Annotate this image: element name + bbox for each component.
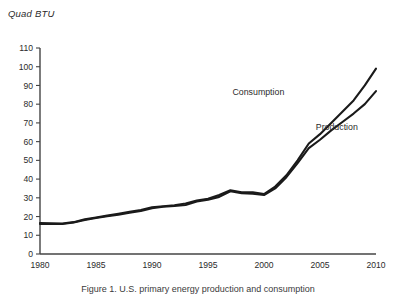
series-label-consumption: Consumption: [232, 87, 284, 97]
y-axis-tick-label: 110: [19, 43, 33, 53]
y-axis-tick-label: 20: [23, 212, 33, 222]
series-label-production: Production: [316, 122, 358, 132]
y-axis-tick-label: 60: [23, 137, 33, 147]
x-axis-tick-label: 1985: [86, 260, 105, 270]
y-axis-tick-label: 0: [28, 249, 33, 259]
x-axis-tick-label: 2010: [366, 260, 385, 270]
x-axis-tick-label: 2005: [310, 260, 329, 270]
y-axis-tick-label: 10: [23, 230, 33, 240]
figure-caption: Figure 1. U.S. primary energy production…: [0, 284, 396, 294]
y-axis-tick-label: 80: [23, 99, 33, 109]
y-axis-tick-label: 70: [23, 118, 33, 128]
x-axis-tick-label: 1995: [198, 260, 217, 270]
y-axis-tick-label: 90: [23, 81, 33, 91]
y-axis-tick-label: 50: [23, 155, 33, 165]
x-axis-tick-label: 1980: [30, 260, 49, 270]
y-axis-tick-label: 100: [19, 62, 34, 72]
y-axis-title: Quad BTU: [8, 8, 54, 19]
y-axis-tick-label: 40: [23, 174, 33, 184]
x-axis-tick-label: 1990: [142, 260, 161, 270]
x-axis-tick-label: 2000: [254, 260, 273, 270]
series-line-production: [40, 91, 376, 224]
y-axis-tick-label: 30: [23, 193, 33, 203]
